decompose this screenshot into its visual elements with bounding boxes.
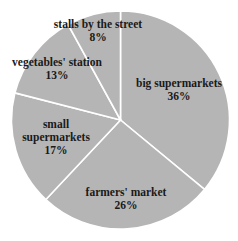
pie-chart: big supermarkets36%farmers' market26%sma… <box>0 0 238 241</box>
slice-name: farmers' market <box>86 186 167 198</box>
slice-percent: 26% <box>115 199 138 211</box>
slice-name: small <box>43 118 69 130</box>
slice-percent: 13% <box>46 69 69 81</box>
slice-percent: 17% <box>45 144 68 156</box>
slice-percent: 36% <box>168 90 191 102</box>
slice-name: supermarkets <box>22 131 90 144</box>
slice-name: vegetables' station <box>12 56 102 69</box>
slice-name: stalls by the street <box>54 18 142 31</box>
slice-percent: 8% <box>89 31 106 43</box>
slice-name: big supermarkets <box>136 77 222 90</box>
